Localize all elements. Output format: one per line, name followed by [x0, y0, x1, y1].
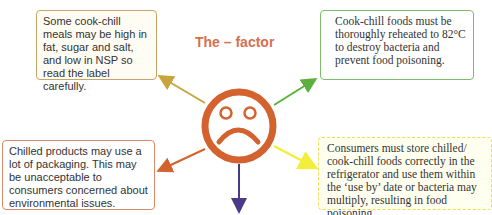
arrow-bottom-left: [160, 149, 205, 170]
reheating-box: Cook-chill foods must be thoroughly rehe…: [320, 10, 474, 80]
storage-box: Consumers must store chilled/ cook-chill…: [318, 137, 492, 210]
arrow-bottom-right: [274, 146, 314, 167]
packaging-box: Chilled products may use a lot of packag…: [2, 140, 155, 210]
diagram-title: The – factor: [195, 34, 274, 50]
nutrition-box: Some cook-chill meals may be high in fat…: [36, 10, 157, 80]
arrow-top-left: [161, 77, 205, 103]
sad-face-icon: [205, 92, 273, 160]
arrow-top-right: [274, 80, 314, 105]
